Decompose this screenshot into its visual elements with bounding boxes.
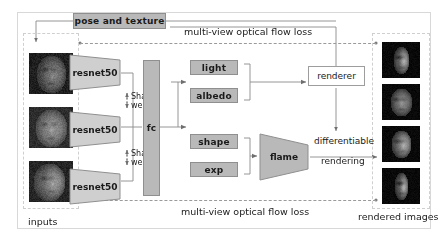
rendered-images-group-label: rendered images bbox=[358, 211, 439, 222]
encoder-block-resnet50-3: resnet50 bbox=[69, 168, 121, 205]
flame-model-block: flame bbox=[259, 133, 309, 181]
flame-label: flame bbox=[259, 133, 309, 181]
inputs-group-label: inputs bbox=[28, 216, 57, 227]
encoder-label-3: resnet50 bbox=[69, 168, 121, 205]
pose-and-texture-block: pose and texture bbox=[73, 13, 166, 29]
top-loss-label: multi-view optical flow loss bbox=[184, 26, 312, 37]
rendering-label: rendering bbox=[321, 156, 365, 166]
light-parameter-block: light bbox=[190, 60, 238, 75]
rendered-face-1 bbox=[382, 42, 420, 78]
encoder-block-resnet50-2: resnet50 bbox=[69, 111, 121, 148]
bottom-loss-label: multi-view optical flow loss bbox=[181, 206, 309, 217]
input-face-2 bbox=[29, 107, 73, 148]
rendered-face-2 bbox=[382, 84, 420, 120]
renderer-block: renderer bbox=[308, 66, 365, 86]
shape-parameter-block: shape bbox=[190, 134, 238, 149]
rendered-face-4 bbox=[382, 168, 420, 204]
expression-parameter-block: exp bbox=[190, 162, 238, 177]
fc-layer-label: fc bbox=[143, 122, 160, 134]
encoder-block-resnet50-1: resnet50 bbox=[69, 54, 121, 91]
encoder-label-2: resnet50 bbox=[69, 111, 121, 148]
differentiable-label: differentiable bbox=[314, 136, 374, 146]
encoder-label-1: resnet50 bbox=[69, 54, 121, 91]
albedo-parameter-block: albedo bbox=[190, 88, 238, 103]
input-face-3 bbox=[29, 161, 73, 202]
rendered-face-3 bbox=[382, 126, 420, 162]
top-loss-dashed-line bbox=[80, 43, 376, 44]
bottom-loss-dashed-line bbox=[80, 200, 376, 201]
figure-canvas: resnet50 resnet50 resnet50 Shared weight… bbox=[0, 0, 443, 241]
input-face-1 bbox=[29, 53, 73, 94]
